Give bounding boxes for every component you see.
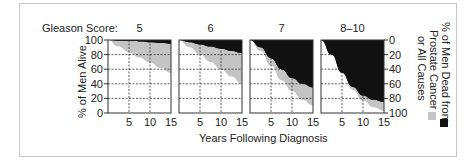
legend-swatch-prostate-cancer bbox=[440, 119, 448, 127]
right-tick-label: 0 bbox=[389, 34, 395, 46]
right-tick-label: 40 bbox=[389, 63, 401, 75]
x-tick-label: 10 bbox=[144, 116, 156, 128]
x-tick-label: 15 bbox=[307, 116, 319, 128]
left-tick-label: 60 bbox=[91, 63, 103, 75]
right-tick-label: 20 bbox=[389, 49, 401, 61]
panel-title: 8–10 bbox=[340, 22, 364, 34]
x-tick-label: 15 bbox=[165, 116, 177, 128]
x-tick-label: 5 bbox=[268, 116, 274, 128]
x-tick-label: 5 bbox=[126, 116, 132, 128]
x-tick-label: 15 bbox=[236, 116, 248, 128]
right-tick-label: 100 bbox=[389, 107, 407, 119]
panel-gleason-3: 510157 bbox=[250, 22, 319, 128]
x-tick-label: 10 bbox=[215, 116, 227, 128]
left-tick-label: 80 bbox=[91, 49, 103, 61]
right-axis-label-line3: or All Causes bbox=[416, 36, 428, 101]
x-tick-label: 5 bbox=[339, 116, 345, 128]
x-tick-label: 10 bbox=[357, 116, 369, 128]
left-tick-label: 40 bbox=[91, 78, 103, 90]
panel-title: 5 bbox=[136, 22, 142, 34]
panel-title: 6 bbox=[207, 22, 213, 34]
panel-gleason-1: 510155 bbox=[108, 22, 177, 128]
right-tick-label: 80 bbox=[389, 92, 401, 104]
right-axis-label-line2: Prostate Cancer bbox=[428, 30, 440, 109]
left-axis-label: % of Men Alive bbox=[76, 45, 88, 118]
x-tick-label: 5 bbox=[197, 116, 203, 128]
x-axis-label: Years Following Diagnosis bbox=[199, 132, 328, 144]
x-tick-label: 10 bbox=[286, 116, 298, 128]
left-tick-label: 100 bbox=[85, 34, 103, 46]
panel-title: 7 bbox=[278, 22, 284, 34]
panel-gleason-4: 510158–10 bbox=[321, 22, 390, 128]
right-axis-label-line1: % of Men Dead from bbox=[440, 22, 452, 123]
panel-gleason-2: 510156 bbox=[179, 22, 248, 128]
left-tick-label: 20 bbox=[91, 92, 103, 104]
left-tick-label: 0 bbox=[97, 107, 103, 119]
right-tick-label: 60 bbox=[389, 78, 401, 90]
legend-swatch-all-causes bbox=[428, 112, 436, 120]
gleason-score-label: Gleason Score: bbox=[42, 22, 118, 34]
